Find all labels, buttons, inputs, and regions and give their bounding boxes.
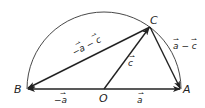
- point-label-b: B: [14, 84, 22, 95]
- vector-label-a-minus-c: ⇀⇀a − c: [173, 42, 197, 51]
- point-label-c: C: [150, 15, 158, 26]
- point-label-a: A: [183, 84, 191, 95]
- vector-semicircle-diagram: B O A C ⇀a ⇀−a ⇀c ⇀⇀a − c ⇀⇀−a − c: [0, 0, 205, 108]
- vector-label-a: ⇀a: [137, 96, 143, 105]
- vector-c: [104, 28, 149, 89]
- point-label-o: O: [99, 93, 108, 104]
- vector-label-neg-a: ⇀−a: [54, 96, 67, 105]
- vector-label-c: ⇀c: [128, 59, 133, 68]
